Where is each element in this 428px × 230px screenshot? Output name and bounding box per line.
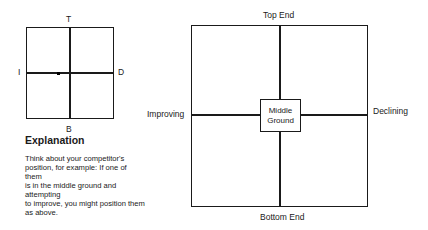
explanation-line: is in the middle ground and attempting	[25, 181, 145, 199]
middle-ground-line2: Ground	[267, 116, 294, 126]
small-grid-bottom-label: B	[66, 124, 72, 134]
competitor-position-dot	[57, 72, 60, 75]
small-grid-top-label: T	[66, 14, 71, 24]
small-grid-left-label: I	[18, 67, 20, 77]
middle-ground-box: Middle Ground	[260, 99, 301, 132]
small-grid-horizontal-axis	[26, 72, 114, 74]
large-grid-right-label: Declining	[373, 106, 408, 116]
small-grid-right-label: D	[118, 67, 124, 77]
explanation-heading: Explanation	[25, 134, 85, 146]
large-grid-left-label: Improving	[147, 109, 184, 119]
explanation-body: Think about your competitor's position, …	[25, 154, 145, 217]
middle-ground-line1: Middle	[269, 106, 293, 116]
explanation-line: as above.	[25, 208, 145, 217]
explanation-line: position, for example: If one of them	[25, 163, 145, 181]
large-grid-bottom-label: Bottom End	[260, 212, 304, 222]
explanation-line: to improve, you might position them	[25, 199, 145, 208]
large-grid-top-label: Top End	[263, 10, 294, 20]
explanation-line: Think about your competitor's	[25, 154, 145, 163]
